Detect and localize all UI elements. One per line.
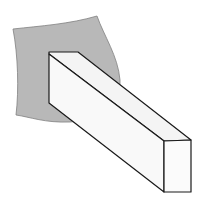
beam-end-face: [164, 140, 191, 192]
cantilever-beam-diagram: [0, 0, 206, 207]
